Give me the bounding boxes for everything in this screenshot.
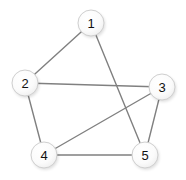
graph-node-1[interactable]: 1: [78, 10, 105, 38]
graph-edge-1-5: [91, 23, 145, 155]
node-label-5: 5: [141, 148, 148, 163]
node-label-2: 2: [21, 76, 28, 91]
graph-node-2[interactable]: 2: [12, 70, 39, 98]
node-label-4: 4: [40, 148, 47, 163]
node-label-3: 3: [158, 80, 165, 95]
graph-canvas: 12345: [0, 0, 186, 180]
edge-layer: [25, 23, 162, 155]
graph-node-3[interactable]: 3: [149, 74, 176, 102]
node-label-1: 1: [87, 16, 94, 31]
graph-node-4[interactable]: 4: [31, 142, 58, 170]
node-layer: 12345: [12, 10, 176, 170]
graph-node-5[interactable]: 5: [132, 142, 159, 170]
graph-edge-2-3: [25, 83, 162, 87]
graph-figure: 12345: [0, 0, 186, 180]
